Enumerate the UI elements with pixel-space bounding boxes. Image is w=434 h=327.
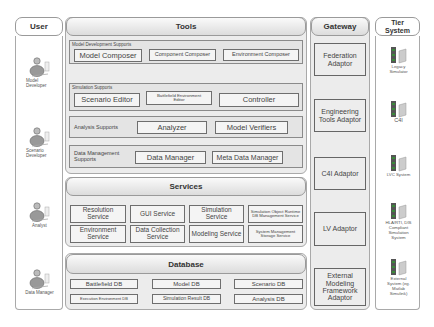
controller-box: Controller [219, 93, 299, 107]
user-model-developer: Model Developer [16, 56, 63, 88]
group-label: Simulation Supports [72, 85, 112, 90]
tier-label: LVC System [376, 172, 421, 177]
tier-label: External System (eg. Matlab Simulink) [376, 276, 421, 296]
gui-service-box: GUI Service [130, 205, 185, 223]
tier-label: C4I [376, 118, 421, 123]
person-at-computer-icon [28, 126, 52, 148]
meta-data-manager-box: Meta Data Manager [212, 151, 283, 164]
model-composer-box: Model Composer [74, 49, 142, 62]
user-label: Model Developer [22, 78, 50, 88]
environment-service-box: Environment Service [70, 225, 126, 243]
analyzer-box: Analyzer [137, 121, 207, 134]
battlefield-environment-editor-box: Battlefield Environment Editor [146, 91, 212, 105]
server-rack-icon [389, 46, 409, 64]
component-composer-box: Component Composer [149, 49, 216, 61]
scenario-db-box: Scenario DB [234, 279, 303, 289]
engineering-tools-adaptor-box: Engineering Tools Adaptor [314, 99, 366, 132]
simulation-supports-group: Simulation Supports Scenario Editor Batt… [69, 83, 303, 111]
server-rack-icon [389, 100, 409, 118]
environment-composer-box: Environment Composer [223, 49, 299, 61]
c4i-adaptor-box: C4I Adaptor [314, 157, 366, 190]
user-scenario-developer: Scenario Developer [16, 126, 63, 158]
simulation-result-db-box: Simulation Result DB [152, 294, 221, 304]
model-development-group: Model Development Supports Model Compose… [69, 40, 303, 64]
model-db-box: Model DB [152, 279, 221, 289]
system-management-storage-service-box: System Management Storage Service [248, 225, 303, 243]
lv-adaptor-box: LV Adaptor [314, 212, 366, 246]
server-rack-icon [389, 202, 409, 220]
server-rack-icon [389, 154, 409, 172]
analysis-db-box: Analysis DB [234, 294, 303, 304]
tier-external-system: External System (eg. Matlab Simulink) [376, 258, 421, 296]
tier-label: HLA/RTI, DIS Compliant Simulation System [376, 220, 421, 240]
tier-system-column: Legacy Simulator C4I LVC System HLA/RTI,… [375, 36, 420, 310]
database-header: Database [66, 254, 306, 274]
services-header: Services [66, 177, 306, 196]
tier-hla-rti-dis-system: HLA/RTI, DIS Compliant Simulation System [376, 202, 421, 240]
analysis-supports-group: Analysis Supports Analyzer Model Verifie… [69, 116, 303, 138]
federation-adaptor-box: Federation Adaptor [314, 43, 366, 76]
data-management-supports-group: Data Management Supports Data Manager Me… [69, 145, 303, 168]
figure-caption-clipped [130, 318, 300, 327]
data-collection-service-box: Data Collection Service [130, 225, 185, 243]
execution-environment-db-box: Execution Environment DB [70, 294, 138, 304]
tier-lvc-system: LVC System [376, 154, 421, 177]
user-column-header: User [15, 17, 63, 36]
tier-label: Legacy Simulator [376, 64, 421, 74]
gateway-header: Gateway [311, 17, 369, 36]
tools-header: Tools [66, 17, 306, 36]
external-modeling-framework-adaptor-box: External Modeling Framework Adaptor [314, 268, 366, 306]
server-rack-icon [389, 258, 409, 276]
tier-system-header: Tier System [375, 17, 420, 36]
data-manager-box: Data Manager [135, 151, 206, 164]
user-column: Model Developer Scenario Developer Analy… [15, 36, 63, 310]
group-label: Data Management Supports [74, 150, 126, 162]
user-analyst: Analyst [16, 201, 63, 228]
person-at-computer-icon [28, 56, 52, 78]
group-label: Analysis Supports [74, 124, 134, 130]
simulation-service-box: Simulation Service [189, 205, 244, 223]
person-at-computer-icon [28, 268, 52, 290]
simulation-object-runtime-db-service-box: Simulation Object Runtime DB Management … [248, 205, 303, 223]
battlefield-db-box: Battlefield DB [70, 279, 138, 289]
user-label: Scenario Developer [22, 148, 52, 158]
modeling-service-box: Modeling Service [189, 225, 244, 243]
group-label: Model Development Supports [72, 42, 131, 47]
model-verifiers-box: Model Verifiers [215, 121, 288, 134]
user-label: Analyst [16, 223, 63, 228]
tier-c4i: C4I [376, 100, 421, 123]
user-label: Data Manager [16, 290, 63, 295]
tier-legacy-simulator: Legacy Simulator [376, 46, 421, 74]
scenario-editor-box: Scenario Editor [74, 93, 140, 107]
resolution-service-box: Resolution Service [70, 205, 126, 223]
person-at-computer-icon [28, 201, 52, 223]
user-data-manager: Data Manager [16, 268, 63, 295]
